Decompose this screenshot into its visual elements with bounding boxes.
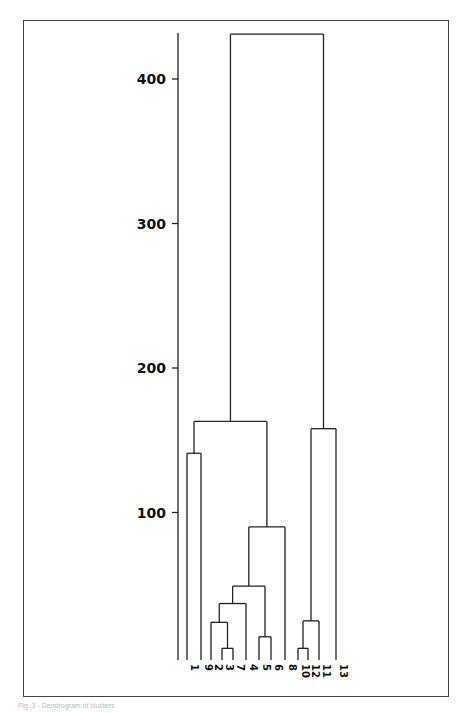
merge-link [222,648,233,660]
y-tick-label: 300 [137,216,166,232]
leaf-label: 5 [261,664,272,671]
dendrogram-plot: 10020030040019237456810121113 [0,0,474,713]
leaf-label: 1 [189,664,200,671]
y-tick-label: 100 [137,505,166,521]
y-tick-label: 200 [137,360,166,376]
leaf-label: 2 [213,664,224,671]
leaf-label: 7 [235,664,246,671]
merge-link [259,637,271,660]
leaf-label: 9 [203,664,214,671]
merge-link [233,586,265,637]
leaf-label: 6 [273,664,284,671]
leaf-label: 8 [287,664,298,671]
merge-link [187,453,201,660]
leaf-label: 3 [224,664,235,671]
leaf-label: 13 [338,664,349,678]
merge-link [303,621,319,660]
leaf-label: 12 [310,664,321,678]
leaf-label: 10 [300,664,311,678]
leaf-label: 11 [321,664,332,678]
merge-link [298,648,308,660]
leaf-label: 4 [248,664,259,671]
merge-link [230,34,323,428]
figure-caption: Fig. 3 - Dendrogram of clusters [18,702,114,709]
merge-link [249,527,285,660]
merge-link [211,622,228,660]
merge-link [311,429,336,660]
merge-link [194,421,267,526]
y-tick-label: 400 [137,71,166,87]
